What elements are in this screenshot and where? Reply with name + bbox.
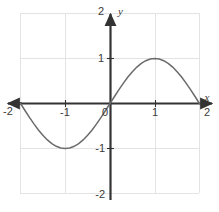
x-tick-label-neg2: -2 xyxy=(3,105,13,117)
x-tick-label-neg1: -1 xyxy=(60,106,70,118)
graph-figure: -2 -1 0 1 2 2 1 -1 -2 y x xyxy=(0,0,219,212)
y-tick-label-neg1: -1 xyxy=(95,142,105,154)
origin-label: 0 xyxy=(102,106,108,118)
x-tick-label-pos1: 1 xyxy=(152,106,158,118)
x-tick-label-pos2: 2 xyxy=(204,106,210,118)
coordinate-plane-plot: -2 -1 0 1 2 2 1 -1 -2 y x xyxy=(0,0,219,212)
y-tick-label-pos1: 1 xyxy=(98,52,104,64)
x-axis-label: x xyxy=(204,91,210,103)
y-tick-label-pos2: 2 xyxy=(98,5,104,17)
y-axis-label: y xyxy=(117,5,123,17)
y-tick-label-neg2: -2 xyxy=(95,188,105,200)
